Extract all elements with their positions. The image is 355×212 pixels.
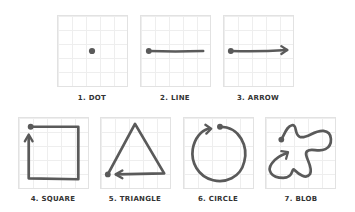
circle-panel <box>183 117 254 189</box>
square-label: 4. SQUARE <box>8 195 98 203</box>
arrow-shape-icon <box>224 16 293 86</box>
triangle-shape-icon <box>101 118 170 188</box>
dot-label: 1. DOT <box>47 94 137 102</box>
line-panel <box>140 15 211 87</box>
triangle-label: 5. TRIANGLE <box>90 195 180 203</box>
circle-shape-icon <box>184 118 253 188</box>
dot-panel <box>57 15 128 87</box>
blob-label: 7. BLOB <box>256 195 346 203</box>
blob-panel <box>265 117 336 189</box>
dot-shape-icon <box>58 16 127 86</box>
arrow-label: 3. ARROW <box>213 94 303 102</box>
circle-label: 6. CIRCLE <box>173 195 263 203</box>
line-label: 2. LINE <box>130 94 220 102</box>
blob-shape-icon <box>266 118 335 188</box>
square-panel <box>18 117 89 189</box>
line-shape-icon <box>141 16 210 86</box>
triangle-panel <box>100 117 171 189</box>
arrow-panel <box>223 15 294 87</box>
square-shape-icon <box>19 118 88 188</box>
